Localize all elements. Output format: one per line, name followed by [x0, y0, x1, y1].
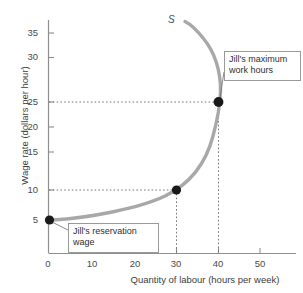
- y-tick-label-5: 5: [16, 215, 38, 225]
- labour-supply-curve: [52, 22, 221, 221]
- x-tick-label-40: 40: [207, 259, 229, 269]
- y-axis-title: Wage rate (dollars per hour): [19, 46, 30, 206]
- y-axis-ticks: [49, 33, 55, 220]
- chart-figure: S 35 30 25 20 15 10 5 0 10 20 30 40 50 W…: [0, 0, 303, 293]
- x-tick-label-20: 20: [124, 259, 146, 269]
- maximum-work-hours-point: [214, 97, 224, 107]
- annotation-maximum-work-hours: Jill's maximum work hours: [224, 51, 301, 81]
- annotation-reservation-wage: Jill's reservation wage: [68, 223, 159, 253]
- x-tick-label-50: 50: [249, 259, 271, 269]
- x-tick-label-30: 30: [165, 259, 187, 269]
- x-tick-label-10: 10: [81, 259, 103, 269]
- x-tick-label-0: 0: [37, 259, 59, 269]
- y-tick-label-35: 35: [16, 28, 38, 38]
- x-axis-title: Quantity of labour (hours per week): [110, 274, 300, 285]
- mid-point: [172, 185, 181, 194]
- reservation-wage-point: [45, 215, 54, 224]
- supply-curve-label: S: [168, 14, 175, 25]
